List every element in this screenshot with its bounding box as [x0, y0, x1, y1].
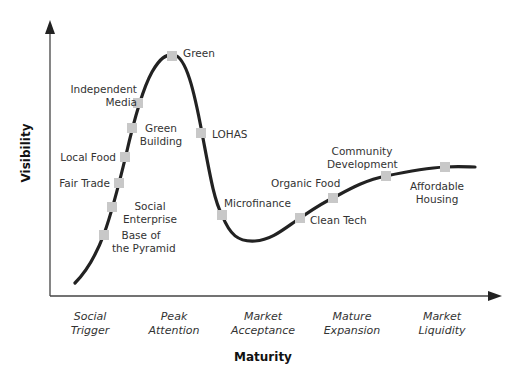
label-local-food: Local Food: [46, 151, 116, 164]
marker-lohas: [196, 128, 206, 138]
marker-affordable-housing: [440, 162, 450, 172]
label-community-development: CommunityDevelopment: [327, 145, 397, 171]
y-axis-title: Visibility: [19, 123, 33, 183]
label-lohas: LOHAS: [212, 128, 247, 141]
phase-peak-attention: PeakAttention: [124, 310, 224, 338]
marker-organic-food: [328, 193, 338, 203]
marker-social-enterprise: [107, 202, 117, 212]
label-microfinance: Microfinance: [224, 197, 291, 210]
marker-fair-trade: [114, 178, 124, 188]
label-organic-food: Organic Food: [271, 177, 340, 190]
phase-market-acceptance: MarketAcceptance: [213, 310, 313, 338]
marker-base-of-pyramid: [99, 230, 109, 240]
label-green: Green: [183, 47, 215, 60]
label-green-building: GreenBuilding: [136, 122, 186, 148]
phase-mature-expansion: MatureExpansion: [302, 310, 402, 338]
x-axis-title: Maturity: [213, 350, 313, 364]
label-independent-media: IndependentMedia: [60, 83, 137, 109]
marker-green: [167, 51, 177, 61]
marker-local-food: [120, 152, 130, 162]
label-clean-tech: Clean Tech: [310, 214, 367, 227]
marker-community-development: [381, 171, 391, 181]
label-social-enterprise: SocialEnterprise: [120, 200, 180, 226]
marker-microfinance: [217, 210, 227, 220]
phase-market-liquidity: MarketLiquidity: [392, 310, 492, 338]
label-fair-trade: Fair Trade: [40, 177, 110, 190]
y-axis-arrow-icon: [45, 20, 55, 34]
x-axis-arrow-icon: [488, 291, 502, 301]
label-affordable-housing: AffordableHousing: [405, 180, 469, 206]
label-base-of-pyramid: Base ofthe Pyramid: [112, 229, 170, 255]
marker-clean-tech: [295, 213, 305, 223]
